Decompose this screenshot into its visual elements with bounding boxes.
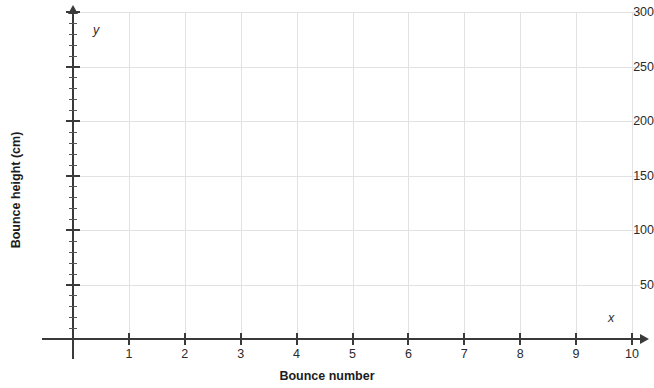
x-axis-tick-label: 8 bbox=[503, 348, 537, 361]
plot-area bbox=[73, 12, 640, 339]
chart-figure: y x Bounce number Bounce height (cm) 501… bbox=[0, 0, 654, 388]
y-axis-tick-label: 50 bbox=[608, 279, 654, 292]
y-axis-minor-tick bbox=[69, 241, 77, 242]
x-axis-tick-label: 4 bbox=[280, 348, 314, 361]
x-axis-tick-label: 1 bbox=[112, 348, 146, 361]
x-axis-variable-name: x bbox=[608, 311, 614, 325]
gridline-vertical bbox=[185, 12, 186, 339]
gridline-horizontal bbox=[73, 12, 640, 13]
y-axis-tick-label: 200 bbox=[608, 115, 654, 128]
gridline-horizontal bbox=[73, 121, 640, 122]
x-axis-tick-label: 2 bbox=[168, 348, 202, 361]
y-axis-minor-tick bbox=[69, 165, 77, 166]
gridline-vertical bbox=[241, 12, 242, 339]
y-axis-minor-tick bbox=[69, 99, 77, 100]
y-axis-minor-tick bbox=[69, 143, 77, 144]
x-axis-tick bbox=[296, 333, 298, 345]
x-axis-tick bbox=[240, 333, 242, 345]
y-axis-minor-tick bbox=[69, 197, 77, 198]
x-axis-title: Bounce number bbox=[0, 369, 654, 383]
gridline-horizontal bbox=[73, 285, 640, 286]
y-axis-variable-name: y bbox=[93, 23, 99, 37]
y-axis-tick bbox=[66, 175, 80, 177]
gridline-vertical bbox=[129, 12, 130, 339]
y-axis-minor-tick bbox=[69, 23, 77, 24]
x-axis-tick bbox=[407, 333, 409, 345]
y-axis-tick bbox=[66, 120, 80, 122]
y-axis-tick-label: 100 bbox=[608, 224, 654, 237]
y-axis-minor-tick bbox=[69, 274, 77, 275]
gridline-vertical bbox=[464, 12, 465, 339]
y-axis-minor-tick bbox=[69, 219, 77, 220]
x-axis-tick bbox=[352, 333, 354, 345]
y-axis-minor-tick bbox=[69, 110, 77, 111]
x-axis-tick bbox=[631, 333, 633, 345]
x-axis-tick-label: 3 bbox=[224, 348, 258, 361]
y-axis-minor-tick bbox=[69, 186, 77, 187]
gridline-vertical bbox=[353, 12, 354, 339]
gridline-vertical bbox=[408, 12, 409, 339]
y-axis-tick bbox=[66, 229, 80, 231]
x-axis-tick bbox=[519, 333, 521, 345]
y-axis-tick bbox=[66, 11, 80, 13]
y-axis-minor-tick bbox=[69, 77, 77, 78]
gridline-vertical bbox=[576, 12, 577, 339]
y-axis-minor-tick bbox=[69, 306, 77, 307]
gridline-horizontal bbox=[73, 67, 640, 68]
x-axis-tick bbox=[463, 333, 465, 345]
y-axis-minor-tick bbox=[69, 328, 77, 329]
y-axis-title: Bounce height (cm) bbox=[9, 100, 23, 280]
y-axis-minor-tick bbox=[69, 252, 77, 253]
y-axis-minor-tick bbox=[69, 45, 77, 46]
x-axis-tick bbox=[184, 333, 186, 345]
y-axis-minor-tick bbox=[69, 208, 77, 209]
y-axis-tick-label: 250 bbox=[608, 61, 654, 74]
y-axis-tick-label: 300 bbox=[608, 6, 654, 19]
y-axis-tick bbox=[66, 66, 80, 68]
y-axis-tick-label: 150 bbox=[608, 170, 654, 183]
y-axis-minor-tick bbox=[69, 132, 77, 133]
gridline-horizontal bbox=[73, 230, 640, 231]
x-axis-tick-label: 9 bbox=[559, 348, 593, 361]
x-axis-tick-label: 7 bbox=[447, 348, 481, 361]
y-axis-minor-tick bbox=[69, 263, 77, 264]
y-axis-minor-tick bbox=[69, 34, 77, 35]
x-axis-tick-label: 6 bbox=[391, 348, 425, 361]
y-axis-minor-tick bbox=[69, 88, 77, 89]
gridline-horizontal bbox=[73, 176, 640, 177]
x-axis-arrow-icon bbox=[640, 334, 649, 344]
y-axis-minor-tick bbox=[69, 295, 77, 296]
x-axis-tick bbox=[575, 333, 577, 345]
y-axis-tick bbox=[66, 284, 80, 286]
gridline-vertical bbox=[297, 12, 298, 339]
y-axis-minor-tick bbox=[69, 154, 77, 155]
x-axis-tick-label: 10 bbox=[615, 348, 649, 361]
y-axis-minor-tick bbox=[69, 317, 77, 318]
y-axis-minor-tick bbox=[69, 56, 77, 57]
x-axis-tick bbox=[128, 333, 130, 345]
x-axis-tick-label: 5 bbox=[336, 348, 370, 361]
gridline-vertical bbox=[520, 12, 521, 339]
x-axis-line bbox=[42, 338, 642, 340]
